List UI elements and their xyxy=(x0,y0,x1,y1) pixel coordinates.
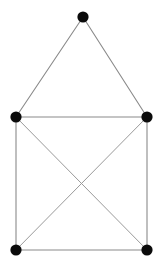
node-right-middle[interactable] xyxy=(141,111,152,122)
node-bottom-right[interactable] xyxy=(141,244,152,255)
node-left-middle[interactable] xyxy=(10,111,21,122)
figure-background xyxy=(0,0,161,266)
graph-figure xyxy=(0,0,161,266)
node-bottom-left[interactable] xyxy=(10,244,21,255)
graph-canvas xyxy=(0,0,161,266)
node-apex[interactable] xyxy=(77,11,88,22)
